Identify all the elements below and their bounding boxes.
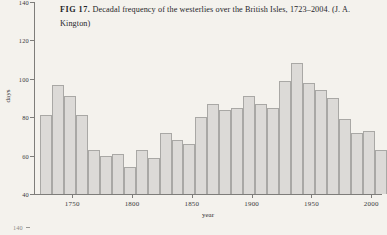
bar <box>279 81 291 194</box>
x-tick-label-1900: 1900 <box>244 200 259 208</box>
y-tick-label-120: 120 <box>19 37 29 44</box>
x-axis-title: year <box>34 211 382 219</box>
x-tick-label-1850: 1850 <box>184 200 199 208</box>
bar <box>112 154 124 194</box>
page-artifact-partial-axis: 140 <box>13 224 30 231</box>
bar <box>195 117 207 194</box>
bar <box>160 133 172 194</box>
artifact-label: 140 <box>13 224 23 231</box>
y-tick-label-60: 60 <box>22 152 29 159</box>
bar <box>303 83 315 194</box>
y-axis-title: days <box>4 90 12 103</box>
bar <box>351 133 363 194</box>
bar <box>76 115 88 194</box>
x-tick-label-1950: 1950 <box>304 200 319 208</box>
x-tick-label-2000: 2000 <box>364 200 379 208</box>
bar <box>219 110 231 194</box>
y-tick-label-40: 40 <box>22 191 29 198</box>
bar <box>267 108 279 194</box>
x-tick-label-1800: 1800 <box>125 200 140 208</box>
bar <box>148 158 160 194</box>
y-tick-label-80: 80 <box>22 114 29 121</box>
bar <box>207 104 219 194</box>
bar <box>183 144 195 194</box>
bar <box>124 167 136 194</box>
artifact-tick-icon <box>26 227 30 228</box>
bar <box>88 150 100 194</box>
bar <box>40 115 52 194</box>
bar <box>243 96 255 194</box>
y-tick-label-100: 100 <box>19 75 29 82</box>
bar <box>64 96 76 194</box>
bar <box>100 156 112 194</box>
bar-series <box>34 0 382 195</box>
x-tick-label-1750: 1750 <box>65 200 80 208</box>
bar <box>375 150 387 194</box>
bar <box>136 150 148 194</box>
bar <box>255 104 267 194</box>
y-tick-label-140: 140 <box>19 0 29 6</box>
bar <box>327 98 339 194</box>
bar <box>52 85 64 194</box>
bar <box>231 108 243 194</box>
bar <box>363 131 375 194</box>
bar <box>291 63 303 194</box>
bar <box>339 119 351 194</box>
chart-plot-area: 406080100120140 175018001850190019502000 <box>34 0 382 195</box>
bar <box>315 90 327 194</box>
bar <box>172 140 184 194</box>
figure-root: FIG 17. Decadal frequency of the westerl… <box>0 0 387 235</box>
